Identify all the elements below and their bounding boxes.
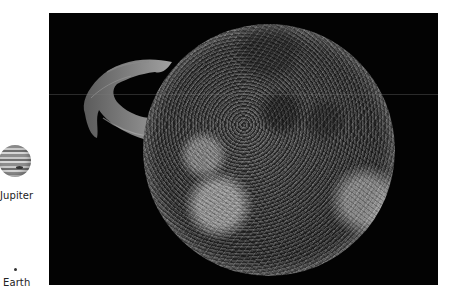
jupiter-label: Jupiter	[0, 190, 33, 201]
great-red-spot	[16, 166, 23, 169]
scan-line-artifact	[49, 94, 438, 95]
earth-dot-icon	[14, 268, 17, 271]
sun	[143, 24, 395, 276]
jupiter-icon	[0, 145, 31, 177]
earth-label: Earth	[3, 277, 30, 288]
sun-image-panel	[49, 13, 438, 285]
